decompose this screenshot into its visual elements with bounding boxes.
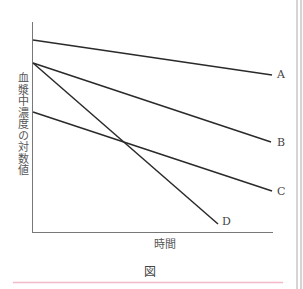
series-line-a xyxy=(33,40,272,75)
series-line-b xyxy=(33,63,271,142)
series-label-a: A xyxy=(277,68,285,81)
series-line-c xyxy=(33,112,272,191)
x-axis-label: 時間 xyxy=(154,235,176,251)
figure-caption: 図 xyxy=(144,262,156,279)
y-axis-label: 血漿中濃度の対数値 xyxy=(15,72,29,176)
series-line-d xyxy=(33,63,218,224)
series-label-b: B xyxy=(277,136,285,149)
chart-svg xyxy=(0,0,303,289)
series-label-d: D xyxy=(222,215,231,228)
series-label-c: C xyxy=(277,185,285,198)
